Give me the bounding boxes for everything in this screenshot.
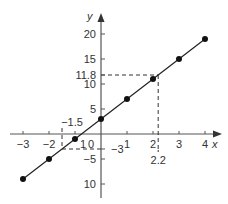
x-tick-label: 0 <box>88 138 94 150</box>
data-point <box>46 156 52 162</box>
x-tick-label: −2 <box>43 138 56 150</box>
chart-svg: xy −3−2101234201511.8105−3−5102.2−1.5 <box>0 0 228 204</box>
y-tick-label: 20 <box>84 28 96 40</box>
data-point <box>72 136 78 142</box>
y-tick-label: 10 <box>84 78 96 90</box>
y-tick-label: 5 <box>90 103 96 115</box>
data-point <box>20 176 26 182</box>
x-axis-arrow-icon <box>213 131 222 138</box>
x-tick-label: −3 <box>17 138 30 150</box>
x-tick-label: 2 <box>150 138 156 150</box>
y-tick-label: 10 <box>84 178 96 190</box>
line-chart: xy −3−2101234201511.8105−3−5102.2−1.5 <box>0 0 228 204</box>
data-point <box>150 76 156 82</box>
tick-labels: −3−2101234201511.8105−3−5102.2−1.5 <box>17 28 208 190</box>
x-tick-label: 4 <box>202 138 208 150</box>
data-point <box>98 116 104 122</box>
guide-x-label: −1.5 <box>61 116 83 128</box>
axes: xy <box>10 10 222 198</box>
data-point <box>202 36 208 42</box>
data-point <box>176 56 182 62</box>
y-axis-arrow-icon <box>98 13 105 22</box>
guide-x-label: 2.2 <box>151 154 166 166</box>
y-tick-label: −5 <box>83 153 96 165</box>
data-point <box>124 96 130 102</box>
x-tick-label: 1 <box>80 138 86 150</box>
x-tick-label: 1 <box>124 138 130 150</box>
x-axis-title: x <box>211 138 218 150</box>
data-series <box>20 36 208 182</box>
x-tick-label: 3 <box>176 138 182 150</box>
y-axis-title: y <box>86 10 94 22</box>
y-tick-label: −3 <box>111 143 124 155</box>
y-tick-label: 15 <box>84 53 96 65</box>
